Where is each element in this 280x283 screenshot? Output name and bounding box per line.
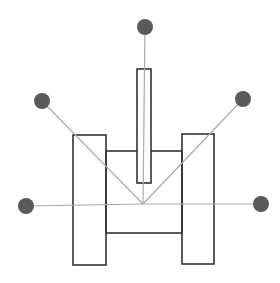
robot-sensor-diagram bbox=[0, 0, 280, 283]
left-wheel bbox=[73, 135, 106, 265]
sensor-dot-left bbox=[18, 198, 34, 214]
right-wheel bbox=[182, 134, 214, 264]
sensor-dot-right bbox=[253, 196, 269, 212]
sensor-dot-upper-right bbox=[235, 91, 251, 107]
sensor-dot-top bbox=[137, 19, 153, 35]
sensor-dot-upper-left bbox=[34, 93, 50, 109]
sensor-rays-overlay bbox=[26, 27, 261, 206]
